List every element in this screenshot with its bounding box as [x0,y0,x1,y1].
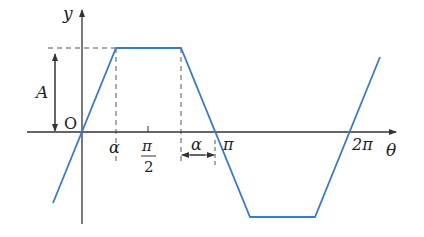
gap-alpha-label: α [191,135,202,154]
y-axis-label: y [62,3,73,23]
tick-label-alpha: α [109,138,120,157]
origin-label: O [64,114,77,133]
x-axis-label: θ [386,140,396,160]
tick-label-half-pi-denominator: 2 [144,158,154,176]
tick-label-two-pi: 2π [351,135,373,154]
tick-label-half-pi-numerator: π [141,137,153,155]
amplitude-label: A [34,82,48,102]
trapezoidal-wave-diagram: y θ O A α π 2 π 2π α [0,0,424,237]
tick-label-pi: π [222,135,234,154]
